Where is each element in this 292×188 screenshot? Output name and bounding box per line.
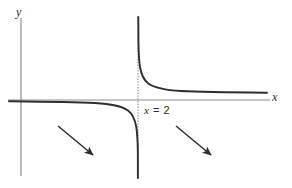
right-direction-arrow: [176, 126, 211, 155]
asymptote-value: 2: [163, 104, 170, 116]
x-axis-label: x: [272, 91, 277, 103]
curve-right-branch: [138, 17, 267, 93]
hyperbola-graph-figure: y x x = 2: [0, 0, 292, 188]
y-axis-label: y: [16, 6, 21, 18]
plot-area: [0, 0, 292, 188]
left-direction-arrow: [58, 126, 93, 155]
asymptote-variable: x: [144, 104, 149, 116]
asymptote-annotation: x = 2: [144, 104, 170, 116]
asymptote-equals-sign: =: [153, 104, 160, 116]
